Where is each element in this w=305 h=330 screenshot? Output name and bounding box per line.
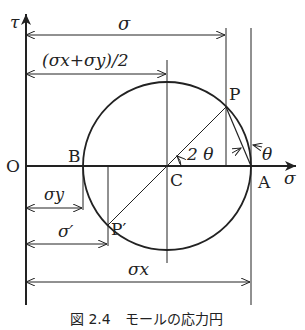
sigma-label: σ	[118, 13, 131, 34]
tau-axis-label: τ	[10, 12, 20, 32]
sigma-prime-label: σ′	[58, 221, 74, 241]
two-theta-label: 2 θ	[186, 144, 213, 164]
origin-label: O	[6, 156, 20, 176]
theta-arrow-right	[253, 145, 262, 147]
figure-caption: 図 2.4 モールの応力円	[70, 311, 223, 327]
point-c-label: C	[170, 170, 183, 190]
mean-label: (σx+σy)/2	[42, 50, 128, 70]
sigma-y-label: σy	[44, 185, 65, 204]
sigma-x-label: σx	[128, 259, 150, 279]
two-theta-arc	[177, 156, 181, 166]
point-b-label: B	[68, 146, 81, 166]
sigma-axis-label: σ	[284, 168, 296, 188]
chord-pa	[226, 107, 251, 166]
point-a-label: A	[257, 172, 271, 192]
theta-label: θ	[262, 144, 272, 164]
theta-arrow-left	[232, 148, 241, 153]
point-pprime-label: P′	[111, 219, 126, 239]
mohr-circle-diagram: τ σ O σ (σx+σy)/2 σy σ′ σx B C A P P′ 2 …	[0, 0, 305, 330]
point-p-label: P	[229, 84, 240, 104]
